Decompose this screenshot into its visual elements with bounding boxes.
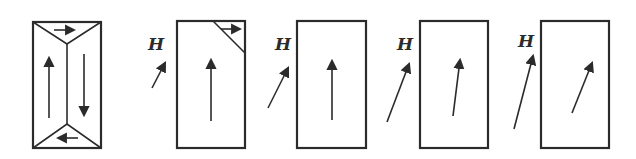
- panel-4: H: [387, 21, 488, 148]
- corner-closure-wall: [213, 21, 245, 53]
- field-label: H: [517, 31, 535, 51]
- top-closure-wall: [33, 22, 101, 44]
- field-label: H: [396, 34, 414, 54]
- sample-rect: [420, 21, 488, 148]
- domain-diagram: H H H H: [0, 0, 636, 159]
- magnetization-arrow-icon: [453, 60, 460, 116]
- panel-3: H: [268, 21, 366, 148]
- field-label: H: [274, 34, 292, 54]
- field-arrow-icon: [387, 64, 409, 122]
- panel-1: [33, 22, 101, 148]
- magnetization-arrow-icon: [572, 63, 592, 113]
- field-arrow-icon: [514, 56, 533, 129]
- field-arrow-icon: [152, 63, 165, 88]
- field-arrow-icon: [268, 68, 288, 108]
- sample-rect: [541, 21, 609, 148]
- panel-2: H: [147, 21, 245, 148]
- field-label: H: [147, 34, 165, 54]
- panel-5: H: [514, 21, 609, 148]
- bottom-closure-wall: [33, 124, 101, 148]
